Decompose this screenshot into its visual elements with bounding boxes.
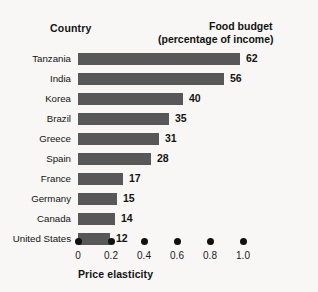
bar — [78, 193, 117, 205]
bar-value-label: 28 — [157, 152, 169, 165]
bar-row: Greece31 — [0, 131, 318, 151]
bar — [78, 113, 169, 125]
bar-row: India56 — [0, 71, 318, 91]
column-header-food-budget-line2: (percentage of income) — [158, 33, 318, 46]
bar-row: Brazil35 — [0, 111, 318, 131]
bar-row-label: Germany — [0, 193, 71, 205]
x-axis-tick-dot — [240, 238, 247, 245]
bar-rows: Tanzania62India56Korea40Brazil35Greece31… — [0, 51, 318, 251]
bar-value-label: 15 — [123, 192, 135, 205]
bar-row: Korea40 — [0, 91, 318, 111]
bar-row-label: France — [0, 173, 71, 185]
bar-value-label: 17 — [129, 172, 141, 185]
bar-row-label: Korea — [0, 93, 71, 105]
bar-row-label: Greece — [0, 133, 71, 145]
bar-value-label: 31 — [165, 132, 177, 145]
bar — [78, 53, 240, 65]
bar-value-label: 62 — [246, 52, 258, 65]
x-axis-tick-dot — [174, 238, 181, 245]
x-axis-tick-dot — [207, 238, 214, 245]
bar-row: Spain28 — [0, 151, 318, 171]
bar-value-label: 35 — [175, 112, 187, 125]
bar-row-label: Tanzania — [0, 53, 71, 65]
bar — [78, 213, 115, 225]
bar-row: Tanzania62 — [0, 51, 318, 71]
bar-row-label: India — [0, 73, 71, 85]
bar — [78, 133, 159, 145]
bar-chart: Country Food budget (percentage of incom… — [0, 0, 318, 292]
column-header-food-budget: Food budget (percentage of income) — [158, 20, 318, 45]
bar-value-label: 40 — [189, 92, 201, 105]
bar-row: Germany15 — [0, 191, 318, 211]
bar-row: Canada14 — [0, 211, 318, 231]
bar-row-label: Spain — [0, 153, 71, 165]
bar — [78, 153, 151, 165]
bar — [78, 73, 224, 85]
x-axis: 00.20.40.60.81.0 Price elasticity — [0, 238, 318, 292]
x-axis-tick-dot — [108, 238, 115, 245]
bar-value-label: 14 — [121, 212, 133, 225]
x-axis-tick-dot — [75, 238, 82, 245]
column-header-food-budget-line1: Food budget — [158, 20, 318, 33]
x-axis-tick-label: 1.0 — [223, 250, 263, 261]
column-header-country: Country — [50, 22, 92, 34]
x-axis-tick-dot — [141, 238, 148, 245]
bar-row-label: Brazil — [0, 113, 71, 125]
x-axis-title: Price elasticity — [78, 268, 153, 280]
bar — [78, 173, 123, 185]
bar-row: France17 — [0, 171, 318, 191]
bar — [78, 93, 183, 105]
bar-value-label: 56 — [230, 72, 242, 85]
bar-row-label: Canada — [0, 213, 71, 225]
